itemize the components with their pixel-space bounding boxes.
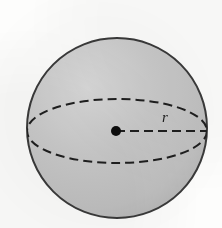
sphere-figure: r <box>0 0 222 228</box>
sphere-diagram-canvas <box>0 0 222 228</box>
center-dot <box>111 126 121 136</box>
radius-label: r <box>162 110 168 125</box>
